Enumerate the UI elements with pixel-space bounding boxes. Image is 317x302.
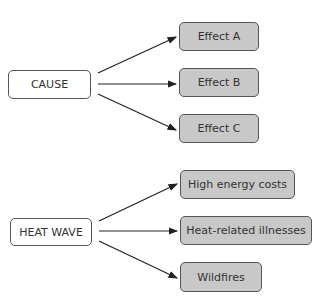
cause-label: CAUSE — [31, 78, 68, 91]
high-energy-costs-label: High energy costs — [188, 178, 287, 191]
wildfires-label: Wildfires — [197, 271, 244, 284]
heat-wave-box: HEAT WAVE — [10, 218, 92, 246]
high-energy-costs-box: High energy costs — [180, 170, 295, 199]
effect-b-label: Effect B — [198, 76, 241, 89]
arrows-layer — [0, 0, 317, 302]
arrow-heatwave-to-energy — [99, 184, 177, 221]
cause-box: CAUSE — [8, 70, 91, 99]
wildfires-box: Wildfires — [180, 262, 262, 292]
heat-related-illnesses-label: Heat-related illnesses — [186, 224, 305, 237]
effect-a-box: Effect A — [179, 22, 259, 51]
effect-a-label: Effect A — [198, 30, 241, 43]
effect-b-box: Effect B — [179, 68, 259, 97]
arrow-heatwave-to-wildfires — [99, 241, 177, 278]
effect-c-label: Effect C — [198, 122, 241, 135]
arrow-cause-to-effect-c — [98, 94, 176, 130]
effect-c-box: Effect C — [179, 114, 259, 143]
heat-wave-label: HEAT WAVE — [19, 226, 83, 239]
heat-related-illnesses-box: Heat-related illnesses — [180, 216, 312, 245]
arrow-cause-to-effect-a — [98, 37, 176, 73]
